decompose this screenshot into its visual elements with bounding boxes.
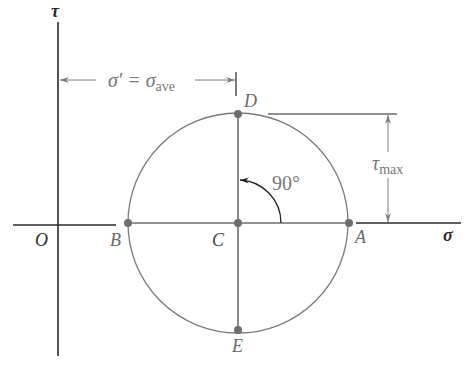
origin-label: O <box>35 230 48 250</box>
label-E: E <box>231 336 243 356</box>
label-A: A <box>354 227 367 247</box>
label-D: D <box>243 91 257 111</box>
mohr-circle-diagram: τ σ O B C A D E σ′ = σave τmax 90° <box>0 0 473 366</box>
label-C: C <box>212 230 225 250</box>
point-C <box>234 219 242 227</box>
point-E <box>234 326 242 334</box>
sigma-ave-label: σ′ = σave <box>108 69 175 94</box>
tau-max-label: τmax <box>372 152 403 177</box>
point-D <box>234 110 242 118</box>
point-A <box>345 219 353 227</box>
point-B <box>124 219 132 227</box>
label-B: B <box>110 230 121 250</box>
tau-axis-label: τ <box>51 1 60 21</box>
sigma-axis-label: σ <box>443 225 454 245</box>
angle-label: 90° <box>272 172 300 194</box>
